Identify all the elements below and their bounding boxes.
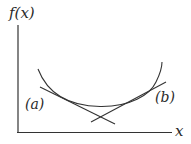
x-axis-label: x bbox=[175, 124, 183, 139]
tangent-b-label: (b) bbox=[155, 90, 175, 104]
tangent-a-label: (a) bbox=[25, 97, 44, 111]
convex-curve bbox=[38, 62, 162, 107]
y-axis-label: f(x) bbox=[9, 6, 35, 21]
convex-function-diagram: f(x) x (a) (b) bbox=[0, 0, 191, 144]
tangent-line-a bbox=[40, 87, 115, 124]
